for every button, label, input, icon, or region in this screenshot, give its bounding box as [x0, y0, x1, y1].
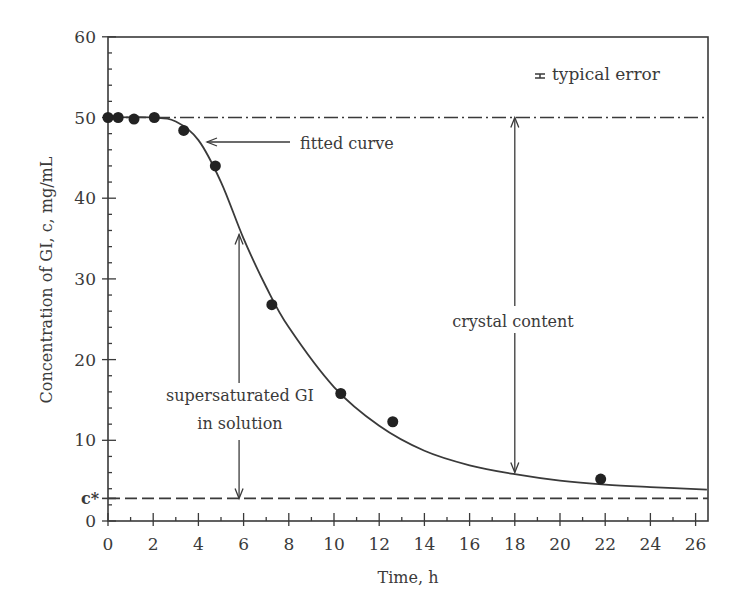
data-point — [387, 416, 398, 427]
y-tick-label: 20 — [74, 350, 96, 370]
y-tick-label: 60 — [74, 27, 96, 47]
x-tick-label: 4 — [193, 534, 204, 554]
legend: typical error — [535, 64, 661, 84]
x-tick-label: 18 — [504, 534, 526, 554]
data-point — [335, 388, 346, 399]
fitted-curve — [108, 117, 707, 489]
data-point — [178, 125, 189, 136]
data-points — [103, 112, 607, 485]
data-point — [128, 114, 139, 125]
fitted-curve-path — [108, 117, 707, 489]
x-tick-label: 2 — [148, 534, 159, 554]
chart: 02468101214161820222426 0102030405060 Ti… — [0, 0, 741, 614]
x-tick-label: 14 — [414, 534, 436, 554]
data-point — [103, 112, 114, 123]
x-tick-label: 6 — [238, 534, 249, 554]
supersaturated-label-line1: supersaturated GI — [166, 386, 314, 405]
supersaturated-label-line2: in solution — [197, 414, 282, 433]
data-point — [595, 474, 606, 485]
x-tick-label: 26 — [685, 534, 707, 554]
x-tick-label: 22 — [594, 534, 616, 554]
axes — [108, 37, 708, 521]
data-point — [113, 112, 124, 123]
y-tick-label: 40 — [74, 188, 96, 208]
legend-typical-error: typical error — [552, 64, 661, 84]
data-point — [149, 112, 160, 123]
error-bar-icon — [535, 74, 545, 78]
annotation-arrows — [207, 118, 519, 499]
y-axis-title: Concentration of GI, c, mg/mL — [37, 156, 56, 403]
x-tick-label: 24 — [640, 534, 662, 554]
plot-frame — [108, 37, 708, 521]
x-tick-label: 16 — [459, 534, 481, 554]
x-axis-title: Time, h — [378, 568, 439, 587]
y-axis-ticks: 0102030405060 — [74, 27, 116, 531]
x-axis-ticks: 02468101214161820222426 — [103, 513, 707, 554]
y-tick-label: 0 — [85, 511, 96, 531]
fitted-curve-label: fitted curve — [300, 134, 394, 153]
x-tick-label: 20 — [549, 534, 571, 554]
x-tick-label: 12 — [368, 534, 390, 554]
x-tick-label: 8 — [283, 534, 294, 554]
data-point — [210, 160, 221, 171]
x-tick-label: 0 — [103, 534, 114, 554]
y-tick-label: 50 — [74, 108, 96, 128]
y-tick-label: 30 — [74, 269, 96, 289]
crystal-content-label: crystal content — [452, 312, 574, 331]
data-point — [266, 299, 277, 310]
x-tick-label: 10 — [323, 534, 345, 554]
y-tick-label: 10 — [74, 430, 96, 450]
c-star-label: c* — [81, 489, 100, 508]
